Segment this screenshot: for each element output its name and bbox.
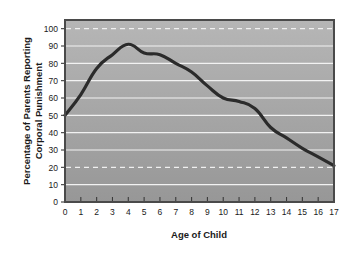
- chart-figure: 0102030405060708090100 01234567891011121…: [0, 0, 348, 255]
- x-tick-label-0: 0: [63, 207, 68, 217]
- x-tick-label-11: 11: [235, 207, 244, 217]
- y-tick-label-40: 40: [49, 128, 59, 138]
- x-tick-label-8: 8: [189, 207, 194, 217]
- x-tick-label-10: 10: [219, 207, 229, 217]
- y-tick-label-30: 30: [49, 145, 59, 155]
- y-tick-label-50: 50: [49, 111, 59, 121]
- x-tick-label-4: 4: [126, 207, 131, 217]
- x-tick-label-17: 17: [329, 207, 339, 217]
- x-tick-label-3: 3: [110, 207, 115, 217]
- y-axis-title-line1: Percentage of Parents Reporting: [21, 37, 32, 185]
- x-tick-label-6: 6: [158, 207, 163, 217]
- x-tick-label-14: 14: [282, 207, 292, 217]
- x-tick-label-2: 2: [94, 207, 99, 217]
- y-axis-title-line2: Corporal Punishment: [33, 62, 44, 159]
- x-tick-label-12: 12: [250, 207, 260, 217]
- x-tick-label-9: 9: [205, 207, 210, 217]
- y-tick-label-80: 80: [49, 59, 59, 69]
- x-tick-label-13: 13: [266, 207, 276, 217]
- corporal-punishment-line-chart: 0102030405060708090100 01234567891011121…: [0, 0, 348, 255]
- x-tick-label-7: 7: [173, 207, 178, 217]
- y-tick-label-60: 60: [49, 93, 59, 103]
- x-axis-title: Age of Child: [171, 229, 227, 240]
- y-tick-label-70: 70: [49, 76, 59, 86]
- x-tick-label-16: 16: [313, 207, 323, 217]
- y-tick-label-10: 10: [49, 180, 59, 190]
- y-tick-label-20: 20: [49, 163, 59, 173]
- x-tick-label-15: 15: [298, 207, 308, 217]
- y-tick-label-90: 90: [49, 41, 59, 51]
- y-tick-label-100: 100: [44, 24, 58, 34]
- y-tick-label-0: 0: [53, 197, 58, 207]
- x-tick-label-5: 5: [142, 207, 147, 217]
- plot-area-background: [65, 20, 334, 202]
- x-tick-label-1: 1: [78, 207, 83, 217]
